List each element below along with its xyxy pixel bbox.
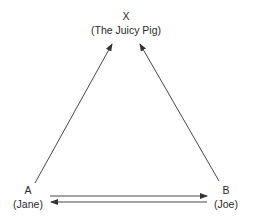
edge-a-to-x <box>35 44 112 183</box>
node-a-letter: A <box>24 184 31 196</box>
edge-b-to-x <box>140 44 219 181</box>
node-x-name: (The Juicy Pig) <box>91 24 161 36</box>
node-a-name: (Jane) <box>13 198 43 210</box>
node-x-letter: X <box>122 10 129 22</box>
node-b-name: (Joe) <box>214 198 238 210</box>
node-b-letter: B <box>222 184 229 196</box>
